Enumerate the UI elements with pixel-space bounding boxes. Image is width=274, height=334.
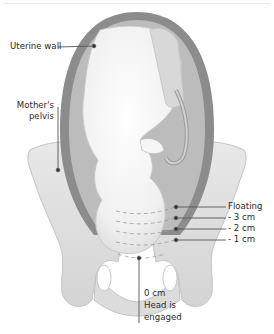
label-engaged: engaged xyxy=(144,312,182,323)
label-minus-3cm: - 3 cm xyxy=(228,212,255,223)
label-floating: Floating xyxy=(228,201,263,212)
label-uterine-wall: Uterine wall xyxy=(10,41,61,52)
label-minus-1cm: - 1 cm xyxy=(228,234,255,245)
fetal-station-diagram: Uterine wall Mother's pelvis Floating - … xyxy=(0,0,274,334)
label-zero-cm: 0 cm xyxy=(144,288,165,299)
label-head-is: Head is xyxy=(144,300,176,311)
label-minus-2cm: - 2 cm xyxy=(228,223,255,234)
label-mothers-pelvis-line1: Mother's xyxy=(14,100,54,111)
label-mothers-pelvis-line2: pelvis xyxy=(14,111,54,122)
